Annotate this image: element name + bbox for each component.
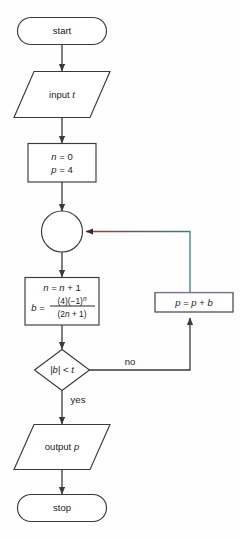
node-update-formula-numerator: (4)(−1)n (58, 295, 87, 306)
node-update-formula-lhs: b = (31, 302, 45, 313)
decision-branch-yes-label: yes (71, 394, 86, 405)
node-output-label: output p (45, 441, 79, 452)
node-stop-label: stop (53, 502, 71, 513)
node-init-line1: n = 0 (51, 150, 72, 161)
node-accumulate-label: p = p + b (174, 296, 213, 307)
node-init-line2: p = 4 (50, 163, 72, 174)
edge-decision-no-to-accumulate (89, 318, 190, 370)
edge-accumulate-to-connector (86, 232, 190, 293)
node-update-formula-denominator: (2n + 1) (57, 309, 86, 319)
node-update-line1: n = n + 1 (43, 282, 81, 293)
node-start-label: start (53, 25, 72, 36)
node-connector-circle (42, 211, 83, 252)
decision-branch-no-label: no (125, 356, 136, 367)
node-input-label: input t (49, 89, 75, 100)
flowchart-diagram: start input t n = 0 p = 4 n = n + 1 b = … (0, 0, 240, 538)
node-decision-label: |b| < t (50, 364, 74, 375)
